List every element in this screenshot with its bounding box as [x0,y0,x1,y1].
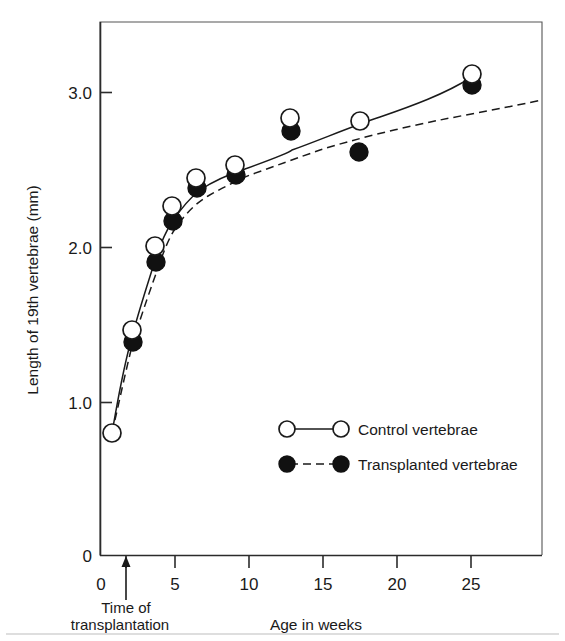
transplantation-label-line2: transplantation [71,616,169,633]
y-tick-label-2: 2.0 [68,239,92,258]
figure-container: 3.0 2.0 1.0 0 0 5 10 15 20 25 Time of tr… [0,0,565,641]
y-tick-label-1: 1.0 [68,394,92,413]
x-tick-label-20: 20 [388,575,407,594]
legend-entry-control[interactable]: Control vertebrae [279,421,478,438]
x-tick-label-25: 25 [462,575,481,594]
plot-frame [100,22,542,555]
y-tick-label-3: 3.0 [68,84,92,103]
control-markers [103,65,481,442]
legend-label-control: Control vertebrae [358,421,478,438]
vertebrae-growth-chart: 3.0 2.0 1.0 0 0 5 10 15 20 25 Time of tr… [0,0,565,641]
x-tick-label-10: 10 [240,575,259,594]
chart-legend: Control vertebrae Transplanted vertebrae [279,421,518,473]
legend-label-transplanted: Transplanted vertebrae [358,456,518,473]
x-tick-label-5: 5 [170,575,179,594]
y-tick-label-0: 0 [83,547,92,566]
x-tick-label-0: 0 [96,575,105,594]
y-axis-title: Length of 19th vertebrae (mm) [24,185,41,394]
x-tick-label-15: 15 [314,575,333,594]
transplantation-arrow-icon [122,556,131,600]
x-axis-title: Age in weeks [270,616,362,633]
legend-entry-transplanted[interactable]: Transplanted vertebrae [279,456,518,473]
transplanted-curve [112,100,541,433]
transplantation-label-line1: Time of [101,599,151,616]
